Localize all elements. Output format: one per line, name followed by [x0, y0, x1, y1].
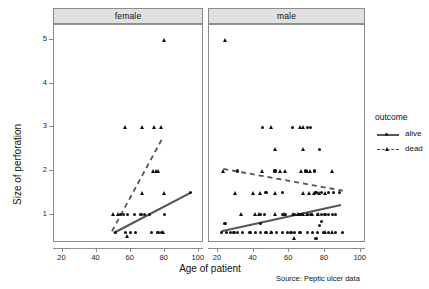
trend-line-dead — [112, 137, 163, 231]
data-point-alive — [248, 231, 251, 234]
x-axis-title: Age of patient — [140, 263, 280, 274]
x-tick-mark — [217, 248, 218, 252]
data-point-dead — [140, 191, 144, 195]
x-tick-mark — [288, 248, 289, 252]
data-point-dead — [273, 147, 277, 151]
data-point-alive — [281, 231, 284, 234]
x-tick-mark — [164, 248, 165, 252]
data-point-alive — [254, 231, 257, 234]
data-point-dead — [111, 212, 115, 216]
data-point-alive — [306, 231, 309, 234]
data-point-dead — [269, 230, 273, 234]
panel-strip-female: female — [53, 8, 203, 24]
data-point-dead — [156, 169, 160, 173]
data-point-alive — [264, 231, 267, 234]
data-point-dead — [308, 169, 312, 173]
data-point-alive — [223, 222, 226, 225]
data-point-dead — [125, 234, 129, 238]
data-point-dead — [282, 212, 286, 216]
data-point-alive — [318, 148, 321, 151]
data-point-dead — [323, 230, 327, 234]
data-point-dead — [269, 125, 273, 129]
x-tick-mark — [130, 248, 131, 252]
x-tick-label: 80 — [313, 253, 335, 262]
data-point-dead — [159, 125, 163, 129]
y-tick-label: 2 — [33, 165, 47, 174]
panel-strip-male: male — [208, 8, 365, 24]
legend-row-alive[interactable]: alive — [377, 129, 429, 141]
data-point-dead — [162, 191, 166, 195]
data-point-dead — [291, 212, 295, 216]
data-point-alive — [311, 231, 314, 234]
data-point-dead — [239, 212, 243, 216]
y-tick-label: 4 — [33, 78, 47, 87]
y-tick-label: 5 — [33, 34, 47, 43]
legend-title: outcome — [375, 112, 408, 122]
triangle-marker-icon — [385, 147, 389, 151]
y-tick-label: 1 — [33, 209, 47, 218]
data-point-alive — [236, 231, 239, 234]
data-point-dead — [316, 212, 320, 216]
data-point-alive — [124, 231, 127, 234]
x-tick-label: 60 — [277, 253, 299, 262]
data-point-dead — [221, 169, 225, 173]
x-tick-label: 60 — [119, 253, 141, 262]
x-tick-mark — [360, 248, 361, 252]
x-tick-label: 40 — [85, 253, 107, 262]
y-axis-title: Size of perforation — [12, 124, 23, 205]
data-point-dead — [330, 169, 334, 173]
legend: outcome alive dead — [375, 112, 429, 162]
x-tick-label: 100 — [349, 253, 371, 262]
data-point-dead — [258, 191, 262, 195]
data-point-alive — [236, 169, 239, 172]
x-tick-label: 40 — [242, 253, 264, 262]
trend-line-alive — [221, 205, 341, 231]
data-point-dead — [116, 212, 120, 216]
data-point-dead — [305, 212, 309, 216]
data-point-alive — [334, 231, 337, 234]
x-tick-mark — [62, 248, 63, 252]
data-point-alive — [314, 237, 317, 240]
data-point-alive — [220, 231, 223, 234]
data-point-dead — [299, 169, 303, 173]
panel-female — [53, 24, 203, 242]
panel-male — [208, 24, 365, 242]
data-point-alive — [150, 231, 153, 234]
data-point-dead — [257, 212, 261, 216]
data-point-alive — [273, 169, 276, 172]
data-point-dead — [283, 169, 287, 173]
data-point-dead — [307, 191, 311, 195]
legend-label-dead: dead — [405, 144, 423, 153]
data-point-alive — [298, 231, 301, 234]
legend-label-alive: alive — [405, 129, 421, 138]
data-point-dead — [301, 125, 305, 129]
x-axis-line — [208, 248, 365, 249]
data-point-dead — [317, 191, 321, 195]
data-point-alive — [114, 231, 117, 234]
data-point-dead — [296, 212, 300, 216]
data-point-dead — [273, 212, 277, 216]
x-tick-mark — [253, 248, 254, 252]
trend-lines — [54, 25, 203, 242]
data-point-dead — [323, 191, 327, 195]
data-point-dead — [330, 230, 334, 234]
data-point-dead — [260, 169, 264, 173]
data-point-alive — [320, 220, 323, 223]
data-point-dead — [140, 125, 144, 129]
data-point-dead — [233, 191, 237, 195]
x-axis-line — [53, 248, 203, 249]
x-tick-mark — [96, 248, 97, 252]
data-point-dead — [301, 147, 305, 151]
x-tick-label: 80 — [153, 253, 175, 262]
data-point-dead — [152, 125, 156, 129]
trend-lines — [209, 25, 365, 242]
data-point-dead — [273, 191, 277, 195]
data-point-dead — [278, 169, 282, 173]
data-point-dead — [162, 38, 166, 42]
chart-root: Size of perforation 12345 female male 20… — [0, 0, 429, 289]
x-tick-label: 20 — [206, 253, 228, 262]
data-point-dead — [223, 38, 227, 42]
legend-row-dead[interactable]: dead — [377, 144, 429, 156]
circle-marker-icon — [385, 133, 388, 136]
x-tick-label: 20 — [51, 253, 73, 262]
